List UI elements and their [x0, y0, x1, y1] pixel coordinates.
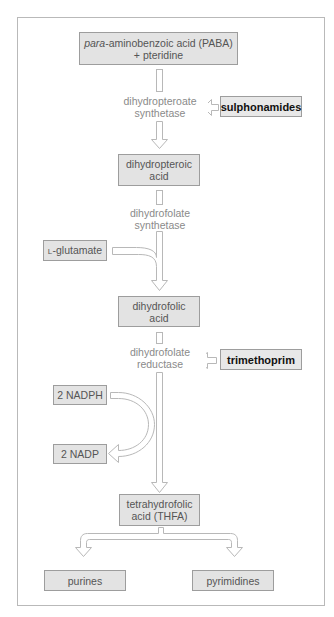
enzyme-dihydrofolate-reductase: dihydrofolate reductase: [114, 346, 206, 370]
paba-pteridine-box: para-aminobenzoic acid (PABA) + pteridin…: [79, 32, 238, 65]
l-glutamate-box: L-glutamate: [43, 240, 107, 261]
trimethoprim-label: trimethoprim: [227, 354, 295, 366]
sulphonamides-box: sulphonamides: [220, 96, 302, 117]
enzyme-2-line-1: dihydrofolate: [112, 207, 208, 219]
dihydrofolic-line-1: dihydrofolic: [132, 300, 185, 312]
arrow-glutamate-merge: [113, 232, 168, 291]
pyrimidines-label: pyrimidines: [206, 575, 259, 587]
thfa-box: tetrahydrofolic acid (THFA): [119, 494, 200, 526]
thfa-line-2: acid (THFA): [131, 510, 187, 522]
enzyme-dihydrofolate-synthetase: dihydrofolate synthetase: [112, 207, 208, 231]
paba-line-1: para-aminobenzoic acid (PABA): [84, 37, 233, 49]
sulphonamides-label: sulphonamides: [221, 101, 302, 113]
paba-name: -aminobenzoic acid (PABA): [105, 37, 233, 49]
para-prefix: para: [84, 37, 105, 49]
enzyme-1-line-1: dihydropteroate: [112, 95, 208, 107]
arrow-down-1: [152, 122, 168, 149]
pyrimidines-box: pyrimidines: [192, 570, 274, 591]
nadp-box: 2 NADP: [53, 444, 107, 464]
enzyme-1-line-2: synthetase: [112, 107, 208, 119]
trimethoprim-box: trimethoprim: [220, 349, 302, 370]
arrow-split-outputs: [76, 528, 243, 557]
nadph-label: 2 NADPH: [57, 389, 103, 401]
dihydropteroic-line-2: acid: [149, 170, 168, 182]
enzyme-dihydropteroate-synthetase: dihydropteroate synthetase: [112, 95, 208, 119]
glutamate-label: L-glutamate: [48, 244, 102, 258]
glutamate-name: -glutamate: [53, 244, 103, 256]
purines-box: purines: [44, 570, 126, 591]
dihydropteroic-acid-box: dihydropteroic acid: [118, 154, 200, 186]
nadp-label: 2 NADP: [61, 448, 99, 460]
purines-label: purines: [68, 575, 102, 587]
nadph-box: 2 NADPH: [53, 385, 107, 405]
stem-2: [157, 191, 163, 205]
thfa-line-1: tetrahydrofolic: [127, 498, 193, 510]
enzyme-3-line-2: reductase: [114, 358, 206, 370]
dihydrofolic-acid-box: dihydrofolic acid: [118, 296, 200, 327]
enzyme-3-line-1: dihydrofolate: [114, 346, 206, 358]
paba-line-2: + pteridine: [134, 49, 183, 61]
stem-3: [157, 333, 163, 344]
arrow-nadph-to-nadp: [109, 393, 155, 463]
dihydrofolic-line-2: acid: [149, 312, 168, 324]
dihydropteroic-line-1: dihydropteroic: [126, 158, 192, 170]
enzyme-2-line-2: synthetase: [112, 219, 208, 231]
stem-1: [157, 70, 163, 92]
